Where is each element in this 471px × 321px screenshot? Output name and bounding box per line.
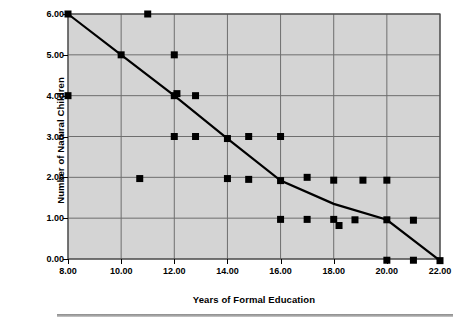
x-tick-mark [174,259,175,264]
y-tick-mark [63,14,68,15]
data-point-marker [351,216,358,223]
data-point-marker [245,176,252,183]
data-point-marker [330,216,337,223]
y-tick-mark [63,55,68,56]
data-point-marker [383,177,390,184]
chart-figure: Number of Natural Children 0.001.002.003… [0,0,471,321]
y-tick-mark [63,218,68,219]
data-point-marker [192,133,199,140]
x-tick-label: 10.00 [101,266,141,276]
x-tick-label: 18.00 [314,266,354,276]
x-tick-mark [68,259,69,264]
x-tick-mark [387,259,388,264]
y-tick-mark [63,137,68,138]
y-tick-mark [63,96,68,97]
data-point-marker [336,222,343,229]
data-point-marker [224,135,231,142]
data-point-marker [330,177,337,184]
x-tick-mark [227,259,228,264]
data-point-marker [171,51,178,58]
x-tick-label: 14.00 [207,266,247,276]
x-tick-mark [440,259,441,264]
data-point-marker [304,174,311,181]
data-point-marker [245,133,252,140]
y-tick-mark [63,177,68,178]
data-point-marker [136,175,143,182]
x-tick-label: 12.00 [154,266,194,276]
bottom-divider-rule [57,314,453,317]
data-point-marker [277,177,284,184]
data-point-marker [224,175,231,182]
data-point-marker [410,217,417,224]
x-tick-label: 22.00 [420,266,460,276]
data-point-marker [383,216,390,223]
data-point-marker [118,51,125,58]
x-tick-mark [281,259,282,264]
data-point-marker [173,90,180,97]
data-point-marker [410,257,417,264]
x-tick-label: 16.00 [261,266,301,276]
data-point-marker [277,133,284,140]
x-tick-label: 20.00 [367,266,407,276]
data-point-marker [144,11,151,18]
data-point-marker [359,177,366,184]
x-tick-mark [334,259,335,264]
data-point-marker [171,133,178,140]
x-tick-mark [121,259,122,264]
x-tick-label: 8.00 [48,266,88,276]
data-point-marker [192,92,199,99]
data-point-marker [304,216,311,223]
data-point-marker [277,216,284,223]
